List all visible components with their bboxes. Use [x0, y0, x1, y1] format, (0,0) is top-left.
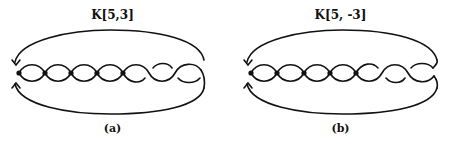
virtual-crossing-dot	[16, 70, 21, 75]
virtual-crossing-dot	[353, 70, 358, 75]
virtual-crossing-dot	[42, 70, 47, 75]
knot-diagram-figure: K[5,3] (a) K[5, -3] (b)	[0, 0, 449, 147]
panel-a: K[5,3] (a)	[0, 0, 225, 147]
virtual-crossing-dot	[274, 70, 279, 75]
virtual-crossing-dot	[94, 70, 99, 75]
panel-b-title: K[5, -3]	[232, 8, 449, 22]
virtual-crossing-dot	[248, 70, 253, 75]
virtual-crossing-dot	[327, 70, 332, 75]
panel-a-title: K[5,3]	[0, 8, 225, 22]
panel-b: K[5, -3] (b)	[232, 0, 449, 147]
panel-a-caption: (a)	[0, 122, 225, 135]
virtual-crossing-dot	[120, 70, 125, 75]
virtual-crossing-dot	[301, 70, 306, 75]
panel-b-caption: (b)	[232, 122, 449, 135]
virtual-crossing-dot	[68, 70, 73, 75]
